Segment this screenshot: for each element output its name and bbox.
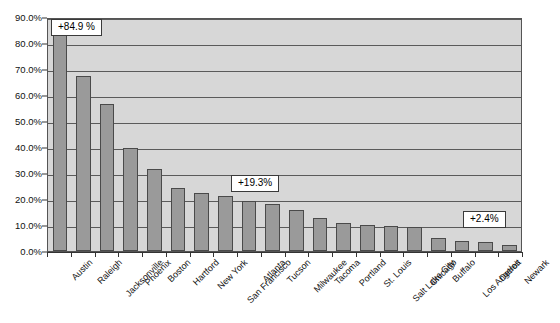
bar-slot xyxy=(356,19,380,251)
x-axis-tick-mark xyxy=(190,253,191,257)
x-axis-tick-mark xyxy=(356,253,357,257)
bars-layer xyxy=(48,19,521,251)
y-axis-tick-mark xyxy=(42,226,47,227)
bar-slot xyxy=(143,19,167,251)
x-axis-tick-mark xyxy=(380,253,381,257)
bar-slot xyxy=(166,19,190,251)
bar[interactable] xyxy=(265,204,280,251)
bar-slot xyxy=(48,19,72,251)
y-axis-tick-label: 90.0% xyxy=(15,13,42,23)
x-axis-tick-mark xyxy=(332,253,333,257)
bar-chart: 90.0%80.0%70.0%60.0%50.0%40.0%30.0%20.0%… xyxy=(0,0,560,323)
y-axis-tick-mark xyxy=(42,96,47,97)
bar-slot xyxy=(308,19,332,251)
bar[interactable] xyxy=(242,201,257,251)
x-axis-tick-mark xyxy=(522,253,523,257)
x-axis-tick-label: Newark xyxy=(523,258,551,286)
bar-slot xyxy=(237,19,261,251)
y-axis-tick-mark xyxy=(42,174,47,175)
y-axis: 90.0%80.0%70.0%60.0%50.0%40.0%30.0%20.0%… xyxy=(0,18,42,252)
y-axis-tick-mark xyxy=(42,200,47,201)
bar-slot xyxy=(379,19,403,251)
x-axis-tick-label: Raleigh xyxy=(96,258,124,286)
x-axis-tick-mark xyxy=(166,253,167,257)
bar[interactable] xyxy=(360,225,375,251)
y-axis-tick-mark xyxy=(42,122,47,123)
bar[interactable] xyxy=(76,76,91,251)
y-axis-tick-label: 50.0% xyxy=(15,117,42,127)
x-axis-tick-mark xyxy=(308,253,309,257)
y-axis-tick-label: 20.0% xyxy=(15,195,42,205)
y-axis-tick-mark xyxy=(42,148,47,149)
x-axis: AustinRaleighJacksonvillePhoenixBostonHa… xyxy=(47,258,522,323)
x-axis-tick-label: New York xyxy=(217,258,250,291)
bar-slot xyxy=(214,19,238,251)
x-axis-tick-label: Austin xyxy=(70,258,94,282)
bar-slot xyxy=(72,19,96,251)
x-axis-tick-mark xyxy=(451,253,452,257)
bar-slot xyxy=(285,19,309,251)
bar[interactable] xyxy=(336,223,351,251)
bar-slot xyxy=(332,19,356,251)
y-axis-tick-mark xyxy=(42,18,47,19)
bar[interactable] xyxy=(478,242,493,251)
bar[interactable] xyxy=(407,227,422,251)
x-axis-tick-mark xyxy=(237,253,238,257)
x-axis-tick-mark xyxy=(71,253,72,257)
x-axis-tick-label: Detroit xyxy=(498,258,523,283)
x-axis-tick-mark xyxy=(403,253,404,257)
x-axis-tick-mark xyxy=(261,253,262,257)
x-axis-tick-mark xyxy=(427,253,428,257)
value-callout: +2.4% xyxy=(463,211,506,228)
bar[interactable] xyxy=(123,148,138,251)
bar[interactable] xyxy=(53,30,68,251)
bar[interactable] xyxy=(502,245,517,251)
y-axis-tick-mark xyxy=(42,44,47,45)
y-axis-tick-label: 60.0% xyxy=(15,91,42,101)
bar[interactable] xyxy=(431,238,446,251)
bar-slot xyxy=(95,19,119,251)
bar[interactable] xyxy=(384,226,399,251)
bar[interactable] xyxy=(313,218,328,251)
bar[interactable] xyxy=(100,104,115,251)
x-axis-tick-mark xyxy=(47,253,48,257)
y-axis-tick-mark xyxy=(42,70,47,71)
y-axis-tick-label: 0.0% xyxy=(20,247,42,257)
x-axis-tick-mark xyxy=(142,253,143,257)
bar-slot xyxy=(261,19,285,251)
bar[interactable] xyxy=(147,169,162,251)
y-axis-tick-label: 80.0% xyxy=(15,39,42,49)
x-axis-tick-mark xyxy=(118,253,119,257)
bar[interactable] xyxy=(289,210,304,251)
bar[interactable] xyxy=(171,188,186,251)
x-axis-tick-mark xyxy=(213,253,214,257)
bar[interactable] xyxy=(194,193,209,252)
value-callout: +19.3% xyxy=(231,175,279,192)
bar-slot xyxy=(190,19,214,251)
x-axis-tick-mark xyxy=(95,253,96,257)
bar-slot xyxy=(403,19,427,251)
bar-slot xyxy=(119,19,143,251)
plot-area xyxy=(47,18,522,252)
value-callout: +84.9 % xyxy=(51,19,102,36)
x-axis-tick-mark xyxy=(475,253,476,257)
x-axis-tick-mark xyxy=(285,253,286,257)
bar[interactable] xyxy=(455,241,470,251)
y-axis-tick-label: 40.0% xyxy=(15,143,42,153)
y-axis-tick-label: 10.0% xyxy=(15,221,42,231)
x-axis-tick-mark xyxy=(498,253,499,257)
bar[interactable] xyxy=(218,196,233,251)
bar-slot xyxy=(427,19,451,251)
y-axis-tick-label: 30.0% xyxy=(15,169,42,179)
y-axis-tick-label: 70.0% xyxy=(15,65,42,75)
